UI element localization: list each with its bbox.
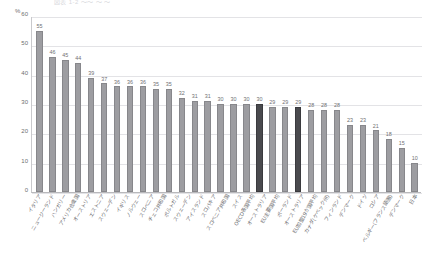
bar[interactable] xyxy=(230,104,236,192)
x-axis-tick-label: ドイツ xyxy=(356,194,368,210)
bar-value-label: 45 xyxy=(62,53,68,58)
bar[interactable] xyxy=(36,31,42,192)
bar-value-label: 29 xyxy=(282,100,288,105)
bar-value-label: 31 xyxy=(192,94,198,99)
bar-cell: 28 xyxy=(331,16,344,192)
bar-cell: 30 xyxy=(240,16,253,192)
bar-cell: 37 xyxy=(98,16,111,192)
x-axis-category-labels: イタリアニュージーランドハンガリーアメリカ合衆国オーストリアエストニアスウェーデ… xyxy=(31,194,421,271)
bar[interactable] xyxy=(153,89,159,192)
bar[interactable] xyxy=(49,57,55,192)
bar[interactable] xyxy=(204,101,210,192)
bar-value-label: 23 xyxy=(360,118,366,123)
bar-cell: 35 xyxy=(149,16,162,192)
bar-value-label: 30 xyxy=(231,97,237,102)
bar-value-label: 28 xyxy=(334,103,340,108)
bar-cell: 55 xyxy=(33,16,46,192)
bar-value-label: 30 xyxy=(256,97,262,102)
category-cell: 日本 xyxy=(407,194,420,271)
header-text: 図表 1-2 ～～ ～ ～ xyxy=(54,0,111,6)
bar[interactable] xyxy=(360,125,366,192)
bar-cell: 30 xyxy=(227,16,240,192)
category-cell: デンマーク xyxy=(395,194,408,271)
bar-cell: 36 xyxy=(111,16,124,192)
bar-value-label: 30 xyxy=(243,97,249,102)
bar[interactable] xyxy=(334,110,340,192)
y-axis-tick-label: 0 xyxy=(12,187,28,193)
bar-cell: 32 xyxy=(175,16,188,192)
bar[interactable] xyxy=(347,125,353,192)
y-axis-tick-label: 50 xyxy=(12,40,28,46)
bar[interactable] xyxy=(308,110,314,192)
y-axis-tick-label: 20 xyxy=(12,128,28,134)
bar-cell: 35 xyxy=(162,16,175,192)
y-axis-tick-label: 10 xyxy=(12,158,28,164)
bar-value-label: 36 xyxy=(140,80,146,85)
bar[interactable] xyxy=(101,83,107,192)
x-axis-tick-label: 日本 xyxy=(409,194,419,205)
bar-cell: 31 xyxy=(201,16,214,192)
bar-value-label: 31 xyxy=(205,94,211,99)
bar-cell: 29 xyxy=(292,16,305,192)
bar-value-label: 32 xyxy=(179,91,185,96)
bar[interactable] xyxy=(217,104,223,192)
bar-cell: 44 xyxy=(72,16,85,192)
bar-value-label: 28 xyxy=(308,103,314,108)
bar-cell: 18 xyxy=(382,16,395,192)
bar-cell: 15 xyxy=(395,16,408,192)
bar-value-label: 30 xyxy=(218,97,224,102)
bar-cell: 21 xyxy=(369,16,382,192)
bar-cell: 36 xyxy=(124,16,137,192)
bar-value-label: 29 xyxy=(269,100,275,105)
bar-cell: 29 xyxy=(266,16,279,192)
bar-value-label: 21 xyxy=(373,124,379,129)
bar-value-label: 10 xyxy=(412,156,418,161)
bar[interactable] xyxy=(411,163,417,192)
bar[interactable] xyxy=(114,86,120,192)
bar-cell: 36 xyxy=(137,16,150,192)
bar-cell: 29 xyxy=(279,16,292,192)
y-axis-tick-label: 30 xyxy=(12,99,28,105)
bar[interactable] xyxy=(243,104,249,192)
chart-page: 図表 1-2 ～～ ～ ～ % 6050403020100 5546454439… xyxy=(0,0,427,271)
bar-value-label: 55 xyxy=(36,24,42,29)
bar-value-label: 39 xyxy=(88,71,94,76)
bar-value-label: 36 xyxy=(127,80,133,85)
bar[interactable] xyxy=(373,130,379,192)
bar[interactable] xyxy=(269,107,275,192)
bar[interactable] xyxy=(386,139,392,192)
bar-series: 5546454439373636363535323131303030302929… xyxy=(32,16,422,192)
bar-value-label: 44 xyxy=(75,56,81,61)
bar-value-label: 46 xyxy=(49,50,55,55)
cut-off-header: 図表 1-2 ～～ ～ ～ xyxy=(0,0,427,9)
bar-value-label: 37 xyxy=(101,77,107,82)
bar-cell: 23 xyxy=(356,16,369,192)
bar-cell: 28 xyxy=(305,16,318,192)
bar[interactable] xyxy=(399,148,405,192)
bar-cell: 31 xyxy=(188,16,201,192)
bar[interactable] xyxy=(88,78,94,192)
bar-cell: 28 xyxy=(318,16,331,192)
bar[interactable] xyxy=(62,60,68,192)
bar-value-label: 18 xyxy=(386,132,392,137)
bar[interactable] xyxy=(192,101,198,192)
bar[interactable] xyxy=(75,63,81,192)
bar[interactable] xyxy=(179,98,185,192)
bar[interactable] xyxy=(166,89,172,192)
plot-area: 6050403020100 55464544393736363635353231… xyxy=(31,17,421,193)
bar-cell: 45 xyxy=(59,16,72,192)
bar-value-label: 35 xyxy=(166,82,172,87)
bar[interactable] xyxy=(256,104,262,192)
bar[interactable] xyxy=(295,107,301,192)
bar-cell: 10 xyxy=(408,16,421,192)
bar[interactable] xyxy=(321,110,327,192)
bar-cell: 39 xyxy=(85,16,98,192)
bar[interactable] xyxy=(282,107,288,192)
bar[interactable] xyxy=(127,86,133,192)
bar-value-label: 35 xyxy=(153,82,159,87)
bar-value-label: 36 xyxy=(114,80,120,85)
bar-cell: 30 xyxy=(214,16,227,192)
bar[interactable] xyxy=(140,86,146,192)
bar-value-label: 23 xyxy=(347,118,353,123)
bar-cell: 23 xyxy=(344,16,357,192)
